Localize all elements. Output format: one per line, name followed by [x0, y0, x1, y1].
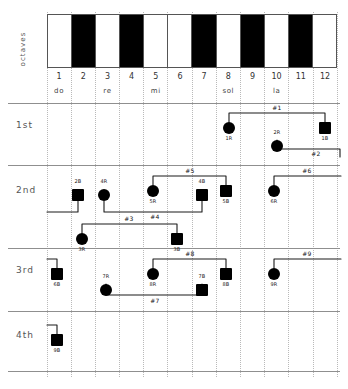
circle-marker-icon	[223, 122, 235, 134]
square-marker-icon	[220, 268, 232, 280]
group-tag-6: #6	[302, 167, 311, 174]
key-10[interactable]	[265, 15, 289, 67]
marker-label: 2B	[67, 178, 89, 184]
circle-marker-icon	[147, 268, 159, 280]
semitone-number: 3	[95, 70, 119, 83]
square-marker-icon	[220, 185, 232, 197]
marker-label: 5R	[142, 198, 164, 204]
key-7[interactable]	[192, 15, 216, 67]
marker-label: 7B	[191, 273, 213, 279]
circle-marker-icon	[98, 189, 110, 201]
solfege-name: mi	[144, 85, 168, 98]
semitone-number: 10	[265, 70, 289, 83]
square-marker-icon	[196, 284, 208, 296]
semitone-number: 5	[144, 70, 168, 83]
semitone-number: 8	[216, 70, 240, 83]
marker-label: 6B	[46, 281, 68, 287]
circle-marker-icon	[76, 233, 88, 245]
solfege-name	[313, 85, 337, 98]
solfege-name: re	[95, 85, 119, 98]
marker-label: 7R	[95, 273, 117, 279]
octaves-axis-label-text: octaves	[19, 32, 27, 67]
marker-label: 8R	[142, 281, 164, 287]
group-tag-2: #2	[311, 150, 320, 157]
marker-label: 6R	[263, 198, 285, 204]
solfege-name	[168, 85, 192, 98]
semitone-number: 6	[168, 70, 192, 83]
group-tag-3: #3	[124, 215, 133, 222]
group-tag-5: #5	[185, 167, 194, 174]
solfege-name: do	[47, 85, 71, 98]
solfege-name: la	[265, 85, 289, 98]
piano-keyboard	[47, 14, 337, 68]
marker-label: 9R	[263, 281, 285, 287]
row-label-1st: 1st	[16, 120, 33, 130]
semitone-number: 12	[313, 70, 337, 83]
key-1[interactable]	[48, 15, 72, 67]
key-11[interactable]	[289, 15, 313, 67]
group-tag-8: #8	[185, 250, 194, 257]
group-tag-9: #9	[302, 250, 311, 257]
semitone-number: 11	[289, 70, 313, 83]
semitone-number: 2	[71, 70, 95, 83]
marker-label: 5B	[215, 198, 237, 204]
semitone-number: 4	[120, 70, 144, 83]
band-separator-bottom	[8, 371, 340, 372]
semitone-number: 7	[192, 70, 216, 83]
key-5[interactable]	[144, 15, 168, 67]
marker-label: 2R	[266, 129, 288, 135]
band-separator-1st	[8, 165, 340, 166]
key-2[interactable]	[72, 15, 96, 67]
connector-g4a	[47, 201, 78, 212]
marker-label: 3R	[71, 246, 93, 252]
semitone-number-row: 1 2 3 4 5 6 7 8 9 10 11 12	[47, 70, 337, 83]
connector-g1	[229, 113, 325, 122]
band-separator-3rd	[8, 311, 340, 312]
square-marker-icon	[51, 268, 63, 280]
solfege-row: do re mi sol la	[47, 85, 337, 98]
marker-label: 8B	[215, 281, 237, 287]
circle-marker-icon	[268, 185, 280, 197]
key-8[interactable]	[217, 15, 241, 67]
square-marker-icon	[171, 233, 183, 245]
circle-marker-icon	[271, 140, 283, 152]
connector-g9	[274, 259, 341, 268]
row-label-2nd: 2nd	[16, 185, 36, 195]
key-12[interactable]	[313, 15, 336, 67]
solfege-name	[240, 85, 264, 98]
row-label-3rd: 3rd	[16, 265, 34, 275]
marker-label: 4R	[93, 178, 115, 184]
square-marker-icon	[319, 122, 331, 134]
group-tag-1: #1	[272, 104, 281, 111]
solfege-name	[192, 85, 216, 98]
connector-g6	[274, 176, 341, 185]
square-marker-icon	[196, 189, 208, 201]
key-4[interactable]	[120, 15, 144, 67]
key-6[interactable]	[168, 15, 192, 67]
solfege-name	[120, 85, 144, 98]
figure-canvas: octaves 1 2 3 4 5 6 7 8 9 10 11 12 do re	[0, 0, 348, 389]
solfege-name	[289, 85, 313, 98]
key-3[interactable]	[96, 15, 120, 67]
key-9[interactable]	[241, 15, 265, 67]
octaves-axis-label: octaves	[16, 18, 30, 80]
solfege-name	[71, 85, 95, 98]
square-marker-icon	[51, 334, 63, 346]
connector-g2	[277, 140, 340, 157]
marker-label: 1R	[218, 135, 240, 141]
semitone-number: 9	[240, 70, 264, 83]
group-tag-4: #4	[150, 213, 159, 220]
marker-label: 4B	[191, 178, 213, 184]
row-label-4th: 4th	[16, 330, 34, 340]
circle-marker-icon	[147, 185, 159, 197]
band-separator-top	[8, 103, 340, 104]
semitone-number: 1	[47, 70, 71, 83]
circle-marker-icon	[268, 268, 280, 280]
marker-label: 9B	[46, 347, 68, 353]
solfege-name: sol	[216, 85, 240, 98]
gridline-13	[337, 12, 339, 377]
group-tag-7: #7	[150, 297, 159, 304]
marker-label: 1B	[314, 135, 336, 141]
square-marker-icon	[72, 189, 84, 201]
circle-marker-icon	[100, 284, 112, 296]
